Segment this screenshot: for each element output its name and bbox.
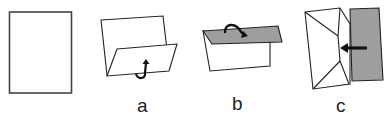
panel-c-label: c [336, 96, 346, 115]
panel-b-label: b [232, 94, 243, 113]
panel-start-sheet [10, 12, 72, 93]
panel-a-label: a [137, 96, 148, 115]
panel-a-diagram [101, 16, 177, 78]
panel-b-diagram [203, 25, 282, 71]
folding-diagram [0, 0, 387, 122]
panel-c-diagram [305, 8, 383, 89]
